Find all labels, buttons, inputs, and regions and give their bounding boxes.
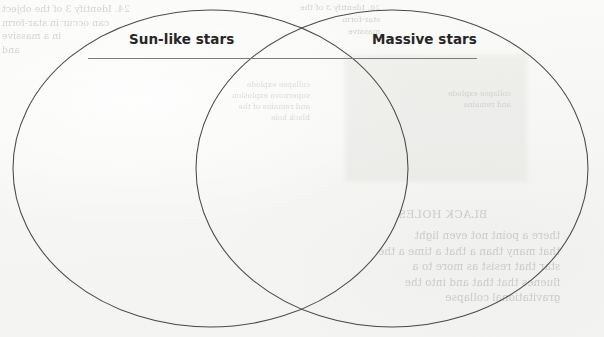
venn-circle-sun-like-stars xyxy=(13,10,408,327)
venn-diagram xyxy=(0,0,604,337)
venn-label-massive-stars: Massive stars xyxy=(372,31,477,47)
venn-circle-massive-stars xyxy=(196,10,588,327)
venn-label-sun-like-stars: Sun-like stars xyxy=(129,31,234,47)
worksheet-page: 24. Identify 3 of the object can occur i… xyxy=(0,0,604,337)
